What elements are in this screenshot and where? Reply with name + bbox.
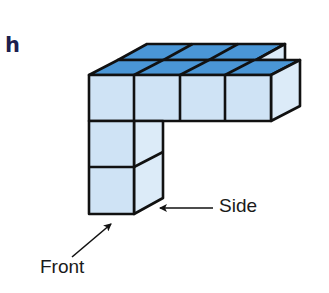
side-caption: Side bbox=[219, 195, 257, 217]
column-front-faces bbox=[89, 121, 134, 214]
front-arrow bbox=[72, 224, 111, 257]
front-row-top bbox=[89, 60, 300, 75]
column-side-face bbox=[134, 121, 163, 214]
front-caption: Front bbox=[40, 256, 84, 278]
front-row-front-faces bbox=[89, 75, 271, 121]
cube-diagram bbox=[0, 0, 329, 293]
